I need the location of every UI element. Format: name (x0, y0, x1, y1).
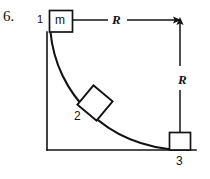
mass-label: m (55, 14, 65, 26)
curved-track-path (51, 32, 181, 150)
physics-diagram-figure: 6. 1 m R R 2 3 (0, 0, 210, 179)
problem-number-label: 6. (3, 9, 14, 24)
horizontal-radius-label: R (112, 13, 121, 26)
position-1-label: 1 (37, 14, 43, 25)
position-2-label: 2 (74, 110, 81, 122)
vertical-radius-label: R (178, 73, 187, 86)
position-3-label: 3 (176, 155, 183, 167)
block-position-2 (77, 85, 112, 120)
block-position-3 (170, 133, 191, 151)
diagram-canvas (0, 0, 210, 179)
